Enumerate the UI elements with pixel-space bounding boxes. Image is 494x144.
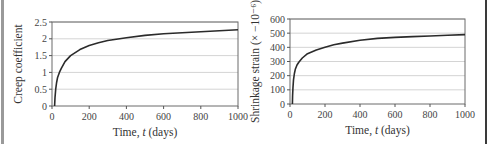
- y-tick-label: 200: [270, 70, 285, 81]
- x-axis-title: Time, t (days): [113, 126, 178, 139]
- x-tick-label: 600: [156, 111, 171, 122]
- y-tick-label: 0.5: [35, 84, 48, 95]
- x-tick-label: 600: [388, 109, 403, 120]
- x-tick-label: 1000: [455, 109, 475, 120]
- y-tick-label: 2.5: [35, 17, 48, 28]
- y-axis-title: Shrinkage strain (× −10⁻⁶): [249, 0, 262, 123]
- y-tick-label: 1.5: [35, 50, 48, 61]
- y-tick-label: 100: [270, 84, 285, 95]
- x-axis-title: Time, t (days): [345, 124, 410, 137]
- y-tick-label: 600: [270, 14, 285, 25]
- x-tick-label: 200: [82, 111, 97, 122]
- charts-canvas: 00.511.522.502004006008001000Time, t (da…: [0, 0, 494, 144]
- x-tick-label: 800: [423, 109, 438, 120]
- x-tick-label: 200: [318, 109, 333, 120]
- y-tick-label: 0: [280, 99, 285, 110]
- y-tick-label: 0: [42, 101, 47, 112]
- x-tick-label: 400: [119, 111, 134, 122]
- x-tick-label: 800: [193, 111, 208, 122]
- data-line: [55, 30, 238, 106]
- y-tick-label: 500: [270, 28, 285, 39]
- y-tick-label: 400: [270, 42, 285, 53]
- data-line: [292, 35, 465, 104]
- y-axis-title: Creep coefficient: [12, 24, 25, 104]
- creep-coefficient-chart: 00.511.522.502004006008001000Time, t (da…: [12, 17, 248, 140]
- shrinkage-strain-chart: 010020030040050060002004006008001000Time…: [249, 0, 475, 137]
- y-tick-label: 1: [42, 67, 47, 78]
- y-tick-label: 300: [270, 56, 285, 67]
- x-tick-label: 1000: [228, 111, 248, 122]
- y-tick-label: 2: [42, 33, 47, 44]
- x-tick-label: 400: [353, 109, 368, 120]
- x-tick-label: 0: [288, 109, 293, 120]
- x-tick-label: 0: [50, 111, 55, 122]
